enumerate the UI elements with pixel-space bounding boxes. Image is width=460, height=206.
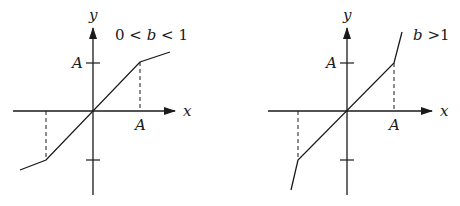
x-tick-label-A: A — [133, 116, 146, 134]
y-axis-label: y — [342, 6, 352, 24]
condition-label: b >1 — [413, 26, 450, 44]
x-tick-label-A: A — [387, 116, 400, 134]
y-tick-label-A: A — [70, 54, 83, 72]
x-axis-label: x — [440, 102, 449, 120]
y-axis-label: y — [88, 6, 98, 24]
condition-label: 0 < b < 1 — [115, 26, 188, 44]
y-tick-label-A: A — [324, 54, 337, 72]
left-panel: y x A A 0 < b < 1 — [13, 6, 192, 195]
piecewise-linear-diagrams: y x A A 0 < b < 1 y x A A b >1 — [0, 0, 460, 206]
right-panel: y x A A b >1 — [268, 6, 450, 195]
x-axis-label: x — [183, 102, 192, 120]
